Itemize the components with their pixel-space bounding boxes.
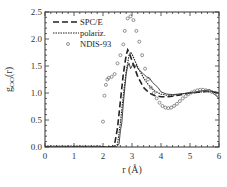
point-ndis-93 bbox=[126, 17, 129, 20]
y-tick-labels: 0.00.51.01.52.02.5 bbox=[31, 7, 43, 152]
point-ndis-93 bbox=[135, 29, 138, 32]
x-tick-label: 3 bbox=[130, 151, 135, 161]
axis-ticks bbox=[45, 12, 219, 147]
axes-frame bbox=[45, 12, 219, 147]
legend-label-polariz: polariz. bbox=[80, 28, 106, 38]
point-ndis-93 bbox=[132, 19, 135, 22]
point-ndis-93 bbox=[122, 43, 125, 46]
legend-label-ndis-93: NDIS-93 bbox=[80, 39, 111, 49]
point-ndis-93 bbox=[103, 94, 106, 97]
point-ndis-93 bbox=[104, 83, 107, 86]
x-tick-labels: 0123456 bbox=[43, 151, 222, 161]
y-tick-label: 0.5 bbox=[31, 115, 43, 125]
point-ndis-93 bbox=[161, 104, 164, 107]
point-ndis-93 bbox=[144, 67, 147, 70]
point-ndis-93 bbox=[173, 104, 176, 107]
point-ndis-93 bbox=[155, 97, 158, 100]
point-ndis-93 bbox=[123, 29, 126, 32]
x-tick-label: 0 bbox=[43, 151, 48, 161]
x-axis-title: r (Å) bbox=[122, 164, 142, 176]
point-ndis-93 bbox=[158, 101, 161, 104]
y-axis-title-tail: (r) bbox=[3, 67, 15, 77]
point-ndis-93 bbox=[119, 54, 122, 57]
plot-area bbox=[44, 15, 220, 149]
point-ndis-93 bbox=[110, 75, 113, 78]
legend-label-spc-e: SPC/E bbox=[80, 17, 103, 27]
y-tick-label: 2.5 bbox=[31, 7, 43, 17]
x-tick-label: 2 bbox=[101, 151, 106, 161]
point-ndis-93 bbox=[184, 95, 187, 98]
y-tick-label: 1.0 bbox=[31, 88, 43, 98]
y-tick-label: 1.5 bbox=[31, 61, 43, 71]
point-ndis-93 bbox=[170, 106, 173, 109]
point-ndis-93 bbox=[146, 78, 149, 81]
x-tick-label: 5 bbox=[188, 151, 193, 161]
y-axis-title-sub: OO bbox=[8, 77, 16, 87]
legend: SPC/Epolariz.NDIS-93 bbox=[53, 17, 111, 49]
point-ndis-93 bbox=[164, 106, 167, 109]
legend-marker-ndis-93 bbox=[67, 43, 70, 46]
point-ndis-93 bbox=[181, 97, 184, 100]
x-tick-label: 1 bbox=[72, 151, 77, 161]
point-ndis-93 bbox=[138, 40, 141, 43]
point-ndis-93 bbox=[178, 100, 181, 103]
y-axis-title: gOO(r) bbox=[3, 67, 16, 92]
point-ndis-93 bbox=[102, 120, 105, 123]
point-ndis-93 bbox=[152, 92, 155, 95]
y-tick-label: 0.0 bbox=[31, 142, 43, 152]
y-tick-label: 2.0 bbox=[31, 34, 43, 44]
series-spc-e bbox=[45, 50, 219, 147]
gOO-chart: 0123456 0.00.51.01.52.02.5 r (Å) gOO(r) … bbox=[0, 0, 227, 187]
point-ndis-93 bbox=[113, 73, 116, 76]
point-ndis-93 bbox=[167, 107, 170, 110]
series-solid-simulation bbox=[45, 63, 219, 147]
x-tick-label: 4 bbox=[159, 151, 164, 161]
x-tick-label: 6 bbox=[217, 151, 222, 161]
point-ndis-93 bbox=[175, 102, 178, 105]
point-ndis-93 bbox=[116, 62, 119, 65]
point-ndis-93 bbox=[141, 54, 144, 57]
